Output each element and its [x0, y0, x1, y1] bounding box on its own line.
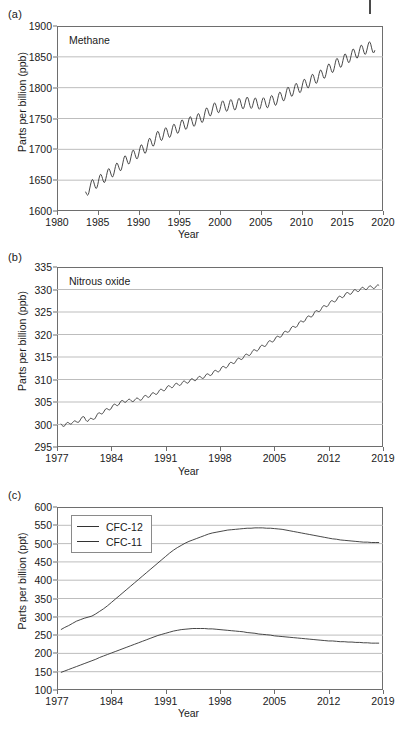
x-tick-mark	[383, 690, 384, 694]
x-tick-label: 1980	[45, 216, 68, 228]
y-tick-mark	[53, 267, 57, 268]
plot-area-a: Methane 1600165017001750180018501900 198…	[57, 26, 383, 211]
y-tick-mark	[53, 312, 57, 313]
legend-label-cfc-12: CFC-12	[106, 521, 143, 533]
x-tick-mark	[329, 447, 330, 451]
legend-item-cfc-12: CFC-12	[77, 519, 143, 534]
y-tick-mark	[53, 561, 57, 562]
x-tick-mark	[111, 690, 112, 694]
x-tick-mark	[342, 211, 343, 215]
panel-nitrous-oxide: (b) Parts per billion (ppb) Nitrous oxid…	[0, 243, 377, 488]
x-axis-label-a: Year	[0, 228, 377, 240]
x-tick-mark	[57, 690, 58, 694]
x-tick-mark	[139, 211, 140, 215]
y-tick-label: 500	[34, 538, 52, 550]
x-tick-label: 1991	[154, 695, 177, 707]
y-tick-label: 310	[34, 374, 52, 386]
x-tick-mark	[179, 211, 180, 215]
y-tick-label: 150	[34, 666, 52, 678]
x-tick-mark	[220, 447, 221, 451]
x-tick-label: 2020	[371, 216, 394, 228]
plot-area-c: CFC-12 CFC-11 10015020025030035040045050…	[57, 507, 383, 690]
chart-legend-c: CFC-12 CFC-11	[71, 515, 152, 553]
x-tick-mark	[166, 447, 167, 451]
y-tick-label: 300	[34, 611, 52, 623]
x-tick-mark	[383, 447, 384, 451]
y-tick-mark	[53, 580, 57, 581]
legend-swatch-icon	[77, 526, 99, 527]
y-tick-mark	[53, 543, 57, 544]
y-tick-label: 400	[34, 574, 52, 586]
x-tick-mark	[383, 211, 384, 215]
legend-label-cfc-11: CFC-11	[106, 536, 142, 548]
x-tick-label: 2005	[263, 452, 286, 464]
y-tick-mark	[53, 289, 57, 290]
panel-label-c: (c)	[8, 489, 21, 501]
y-tick-label: 250	[34, 629, 52, 641]
x-tick-label: 2019	[371, 695, 394, 707]
y-tick-mark	[53, 357, 57, 358]
x-tick-mark	[274, 447, 275, 451]
x-tick-label: 2012	[317, 695, 340, 707]
x-tick-label: 1977	[45, 695, 68, 707]
y-tick-label: 1900	[29, 20, 52, 32]
y-tick-mark	[53, 402, 57, 403]
x-tick-label: 2005	[263, 695, 286, 707]
x-tick-mark	[220, 690, 221, 694]
x-tick-mark	[98, 211, 99, 215]
x-tick-label: 1985	[86, 216, 109, 228]
y-axis-label-c: Parts per billion (ppt)	[16, 501, 28, 661]
x-tick-label: 1995	[168, 216, 191, 228]
annotation-nitrous-oxide: Nitrous oxide	[69, 275, 130, 287]
x-tick-label: 2000	[208, 216, 231, 228]
y-tick-label: 550	[34, 519, 52, 531]
y-tick-mark	[53, 87, 57, 88]
y-tick-mark	[53, 598, 57, 599]
y-tick-label: 1700	[29, 143, 52, 155]
y-tick-label: 1850	[29, 51, 52, 63]
x-tick-mark	[57, 211, 58, 215]
y-tick-label: 320	[34, 329, 52, 341]
nitrous-oxide-line-chart	[57, 267, 383, 447]
y-tick-mark	[53, 379, 57, 380]
y-tick-label: 335	[34, 261, 52, 273]
methane-line-chart	[57, 26, 383, 211]
y-tick-label: 315	[34, 351, 52, 363]
y-tick-mark	[53, 653, 57, 654]
y-tick-mark	[53, 180, 57, 181]
legend-item-cfc-11: CFC-11	[77, 534, 143, 549]
y-tick-label: 350	[34, 593, 52, 605]
x-axis-label-c: Year	[0, 707, 377, 719]
y-tick-label: 1650	[29, 174, 52, 186]
x-tick-label: 1990	[127, 216, 150, 228]
panel-label-a: (a)	[8, 8, 22, 20]
y-tick-label: 300	[34, 419, 52, 431]
x-tick-mark	[274, 690, 275, 694]
x-tick-label: 1991	[154, 452, 177, 464]
x-tick-label: 1977	[45, 452, 68, 464]
x-tick-mark	[220, 211, 221, 215]
x-tick-label: 2010	[290, 216, 313, 228]
legend-swatch-icon	[77, 541, 99, 542]
panel-cfc: (c) Parts per billion (ppt) CFC-12 CFC-1…	[0, 481, 377, 729]
x-tick-label: 2005	[249, 216, 272, 228]
x-tick-label: 1998	[208, 452, 231, 464]
y-tick-label: 330	[34, 284, 52, 296]
y-tick-label: 600	[34, 501, 52, 513]
y-tick-mark	[53, 671, 57, 672]
x-axis-label-b: Year	[0, 465, 377, 477]
y-tick-label: 1800	[29, 82, 52, 94]
y-tick-mark	[53, 616, 57, 617]
x-tick-label: 2019	[371, 452, 394, 464]
y-axis-label-a: Parts per billion (ppb)	[16, 22, 28, 182]
y-tick-label: 200	[34, 647, 52, 659]
y-tick-mark	[53, 56, 57, 57]
x-tick-label: 1984	[100, 695, 123, 707]
y-tick-mark	[53, 424, 57, 425]
x-tick-mark	[57, 447, 58, 451]
y-tick-mark	[53, 26, 57, 27]
plot-area-b: Nitrous oxide 29530030531031532032533033…	[57, 267, 383, 447]
y-tick-mark	[53, 525, 57, 526]
y-tick-label: 450	[34, 556, 52, 568]
